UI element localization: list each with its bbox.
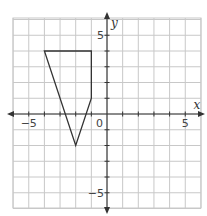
y-tick-label-neg5: −5 bbox=[88, 187, 104, 200]
y-axis-arrow-down-icon bbox=[104, 207, 110, 214]
coordinate-plane: −5 5 5 −5 0 x y bbox=[0, 0, 207, 216]
axes bbox=[7, 12, 205, 214]
origin-label: 0 bbox=[96, 117, 103, 130]
x-tick-label-neg5: −5 bbox=[21, 117, 37, 130]
y-axis-label: y bbox=[110, 16, 118, 30]
x-axis-label: x bbox=[194, 98, 201, 112]
y-axis-arrow-up-icon bbox=[104, 12, 110, 19]
x-tick-label-5: 5 bbox=[182, 117, 189, 130]
tick-labels: −5 5 5 −5 0 x y bbox=[21, 16, 201, 200]
y-tick-label-5: 5 bbox=[97, 29, 104, 42]
x-axis-arrow-left-icon bbox=[7, 111, 14, 117]
